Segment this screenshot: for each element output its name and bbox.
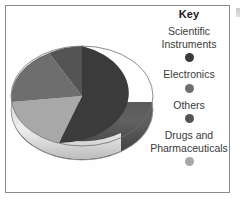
- legend-item-electronics[interactable]: Electronics: [150, 68, 228, 93]
- legend-item-scientific-instruments[interactable]: Scientific Instruments: [150, 25, 228, 62]
- legend-item-drugs-and-pharmaceuticals[interactable]: Drugs and Pharmaceuticals: [150, 129, 228, 166]
- legend-label-drugs-and-pharmaceuticals: Drugs and Pharmaceuticals: [150, 129, 228, 154]
- legend-label-others: Others: [150, 99, 228, 112]
- pie-chart-figure: Key Scientific Instruments Electronics O…: [0, 0, 246, 203]
- legend: Key Scientific Instruments Electronics O…: [150, 8, 228, 172]
- pie-chart-area: [6, 6, 158, 192]
- legend-title: Key: [150, 8, 228, 20]
- legend-swatch-electronics: [185, 84, 194, 93]
- stray-tick-mark: [236, 8, 240, 17]
- legend-swatch-scientific-instruments: [185, 53, 194, 62]
- legend-swatch-others: [185, 114, 194, 123]
- legend-item-others[interactable]: Others: [150, 99, 228, 124]
- legend-label-electronics: Electronics: [150, 68, 228, 81]
- legend-label-scientific-instruments: Scientific Instruments: [150, 25, 228, 50]
- pie-chart-svg: [6, 6, 158, 192]
- legend-swatch-drugs-and-pharmaceuticals: [185, 157, 194, 166]
